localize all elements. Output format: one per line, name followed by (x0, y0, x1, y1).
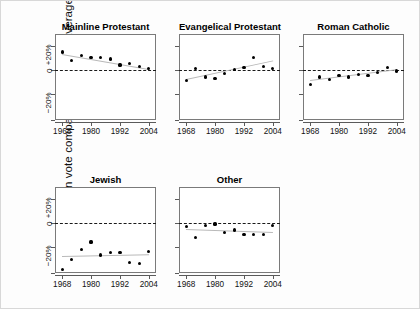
x-axis: 1968198019922004 (303, 120, 404, 136)
x-axis: 1968198019922004 (179, 120, 280, 136)
x-axis-tick-label: 1980 (206, 280, 224, 289)
data-point (185, 79, 188, 82)
panel-title: Jewish (55, 174, 156, 185)
x-axis-line (55, 275, 156, 276)
data-point (376, 71, 379, 74)
zero-reference-line (55, 70, 156, 71)
data-point (138, 65, 141, 68)
data-point (109, 57, 112, 60)
y-axis (165, 34, 179, 120)
panel-title: Other (179, 174, 280, 185)
x-axis-line (179, 122, 280, 123)
data-point (271, 224, 274, 227)
x-axis: 1968198019922004 (55, 120, 156, 136)
x-axis-tick (397, 122, 398, 126)
x-axis-tick-label: 2004 (140, 127, 158, 136)
x-axis-tick-label: 2004 (388, 127, 406, 136)
x-axis-tick-label: 1968 (53, 280, 71, 289)
x-axis-tick (186, 275, 187, 279)
x-axis-tick-label: 1968 (177, 280, 195, 289)
data-point (252, 56, 255, 59)
data-point (118, 63, 121, 66)
x-axis-line (303, 122, 404, 123)
x-axis-tick (368, 122, 369, 126)
data-point (138, 262, 141, 265)
x-axis-tick (149, 122, 150, 126)
figure-canvas: Republican vote compared to national ave… (1, 1, 419, 308)
x-axis-line (55, 122, 156, 123)
panel-title: Mainline Protestant (55, 21, 156, 32)
panel-other: Other1968198019922004 (179, 187, 280, 273)
data-point (366, 74, 369, 77)
trend-line (62, 254, 149, 257)
data-point (328, 78, 331, 81)
x-axis-tick-label: 2004 (264, 127, 282, 136)
y-axis-tick (175, 223, 179, 224)
panel-title: Roman Catholic (303, 21, 404, 32)
trend-line (310, 69, 397, 81)
y-axis-tick-label: +20% (45, 197, 54, 218)
plot-area (55, 187, 156, 273)
data-point (357, 73, 360, 76)
x-axis-tick (244, 122, 245, 126)
data-point (213, 77, 216, 80)
x-axis-tick-label: 1980 (82, 280, 100, 289)
data-point (99, 253, 102, 256)
y-axis-tick-label: −20% (45, 92, 54, 113)
data-point (262, 233, 265, 236)
x-axis-tick (310, 122, 311, 126)
data-point (61, 268, 64, 271)
data-point (233, 228, 236, 231)
y-axis (289, 34, 303, 120)
x-axis-tick (62, 122, 63, 126)
x-axis-tick (215, 122, 216, 126)
y-axis-tick (299, 70, 303, 71)
panel-jewish: Jewish+20%0−20%1968198019922004 (55, 187, 156, 273)
y-axis-tick (175, 46, 179, 47)
data-point (99, 56, 102, 59)
x-axis-tick-label: 2004 (140, 280, 158, 289)
zero-reference-line (179, 223, 280, 224)
x-axis-tick (186, 122, 187, 126)
panel-title: Evangelical Protestant (179, 21, 280, 32)
y-axis-tick (299, 46, 303, 47)
y-axis: +20%0−20% (41, 187, 55, 273)
plot-area (179, 34, 280, 120)
panel-mainline-protestant: Mainline Protestant+20%0−20%196819801992… (55, 34, 156, 120)
data-point (242, 233, 245, 236)
data-point (386, 66, 389, 69)
data-point (309, 83, 312, 86)
x-axis-tick-label: 1980 (82, 127, 100, 136)
data-point (118, 251, 121, 254)
x-axis-tick (244, 275, 245, 279)
y-axis-tick (175, 247, 179, 248)
x-axis-tick-label: 1968 (53, 127, 71, 136)
y-axis-tick (175, 94, 179, 95)
x-axis-tick (120, 122, 121, 126)
plot-area (303, 34, 404, 120)
x-axis-tick-label: 1992 (235, 127, 253, 136)
trend-line (186, 229, 273, 233)
data-point (347, 75, 350, 78)
x-axis-tick-label: 1992 (359, 127, 377, 136)
x-axis-tick (215, 275, 216, 279)
x-axis-tick (149, 275, 150, 279)
data-point (395, 69, 398, 72)
x-axis: 1968198019922004 (55, 273, 156, 289)
panel-evangelical-protestant: Evangelical Protestant1968198019922004 (179, 34, 280, 120)
y-axis-tick-label: 0 (45, 68, 54, 72)
panel-roman-catholic: Roman Catholic1968198019922004 (303, 34, 404, 120)
plot-area (55, 34, 156, 120)
x-axis-tick-label: 1980 (330, 127, 348, 136)
y-axis-tick (175, 70, 179, 71)
x-axis-line (179, 275, 280, 276)
x-axis-tick (120, 275, 121, 279)
x-axis: 1968198019922004 (179, 273, 280, 289)
x-axis-tick-label: 1992 (111, 280, 129, 289)
y-axis-tick-label: +20% (45, 44, 54, 65)
zero-reference-line (55, 223, 156, 224)
data-point (204, 224, 207, 227)
x-axis-tick (62, 275, 63, 279)
data-point (213, 222, 216, 225)
data-point (128, 261, 131, 264)
